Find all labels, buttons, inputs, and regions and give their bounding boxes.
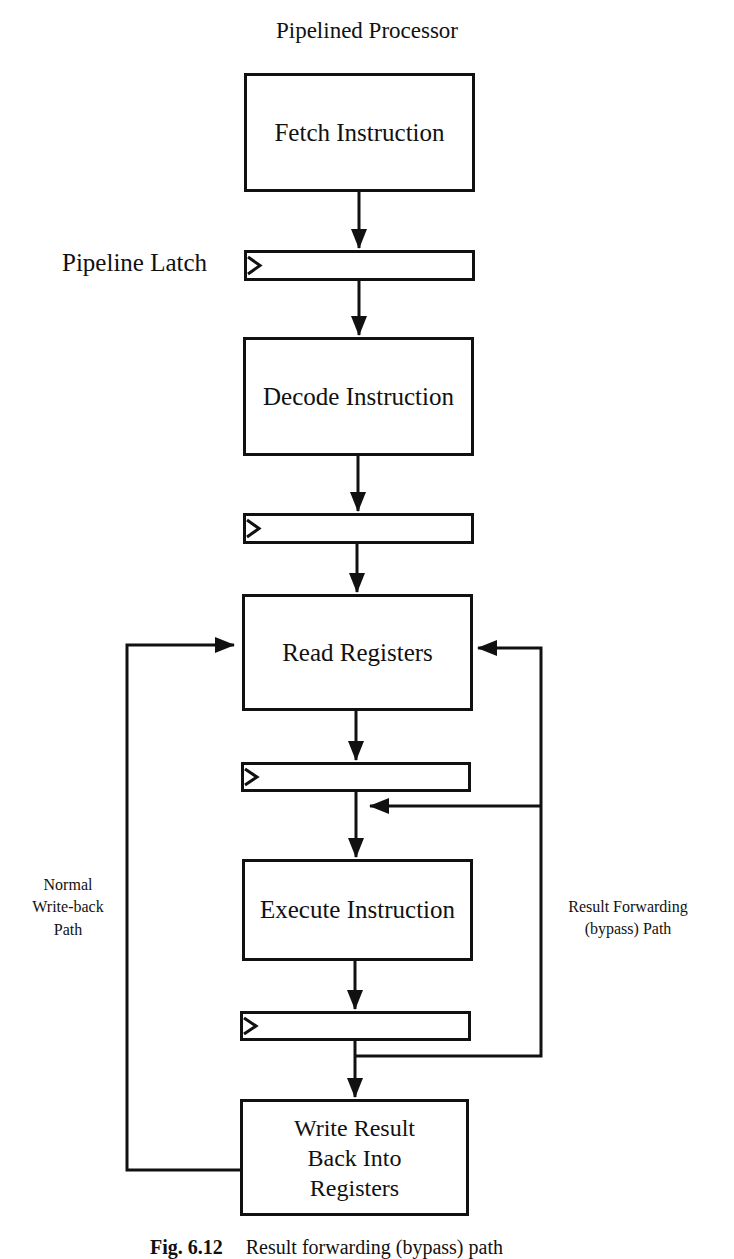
stage-writeback-label: Write Result Back Into Registers [294,1113,415,1203]
stage-fetch-box: Fetch Instruction [244,73,475,192]
stage-writeback-box: Write Result Back Into Registers [240,1099,469,1216]
pipeline-latch-2 [243,513,474,544]
clock-triangle-icon [243,1014,259,1038]
pipeline-latch-1 [244,250,475,281]
writeback-path-line [127,645,240,1170]
clock-triangle-icon [244,765,260,789]
figure-number: Fig. 6.12 [150,1236,223,1258]
pipeline-latch-label: Pipeline Latch [62,249,207,277]
stage-decode-box: Decode Instruction [243,337,474,456]
writeback-path-label: Normal Write-back Path [14,874,122,941]
clock-triangle-icon [246,516,262,541]
figure-caption-text: Result forwarding (bypass) path [246,1236,503,1258]
pipeline-latch-3 [241,762,471,792]
bypass-path-label: Result Forwarding (bypass) Path [548,896,708,941]
pipeline-latch-4 [240,1011,471,1041]
stage-read-label: Read Registers [282,637,433,668]
clock-triangle-icon [247,253,263,278]
stage-execute-box: Execute Instruction [242,859,473,961]
stage-read-registers-box: Read Registers [242,594,473,711]
stage-decode-label: Decode Instruction [263,381,454,412]
stage-fetch-label: Fetch Instruction [274,117,444,148]
figure-caption: Fig. 6.12 Result forwarding (bypass) pat… [150,1236,503,1259]
stage-execute-label: Execute Instruction [260,894,455,925]
